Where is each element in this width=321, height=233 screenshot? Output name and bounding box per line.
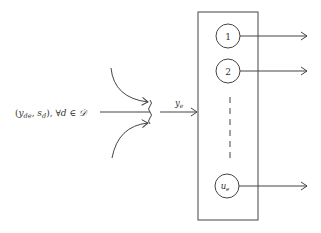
node-ue: ue xyxy=(215,174,239,198)
node-2: 2 xyxy=(216,59,240,83)
aggregate-label: ye xyxy=(174,98,184,109)
input-label: (yde, sd), ∀d ∈ 𝒟 xyxy=(15,108,88,120)
svg-text:2: 2 xyxy=(225,67,231,77)
svg-text:1: 1 xyxy=(225,32,231,42)
top-curved-input-arrow xyxy=(111,68,148,102)
node-1: 1 xyxy=(216,24,240,48)
bottom-curved-input-arrow xyxy=(112,123,148,158)
diagram-canvas: (yde, sd), ∀d ∈ 𝒟 ye 1 2 ue xyxy=(0,0,321,233)
